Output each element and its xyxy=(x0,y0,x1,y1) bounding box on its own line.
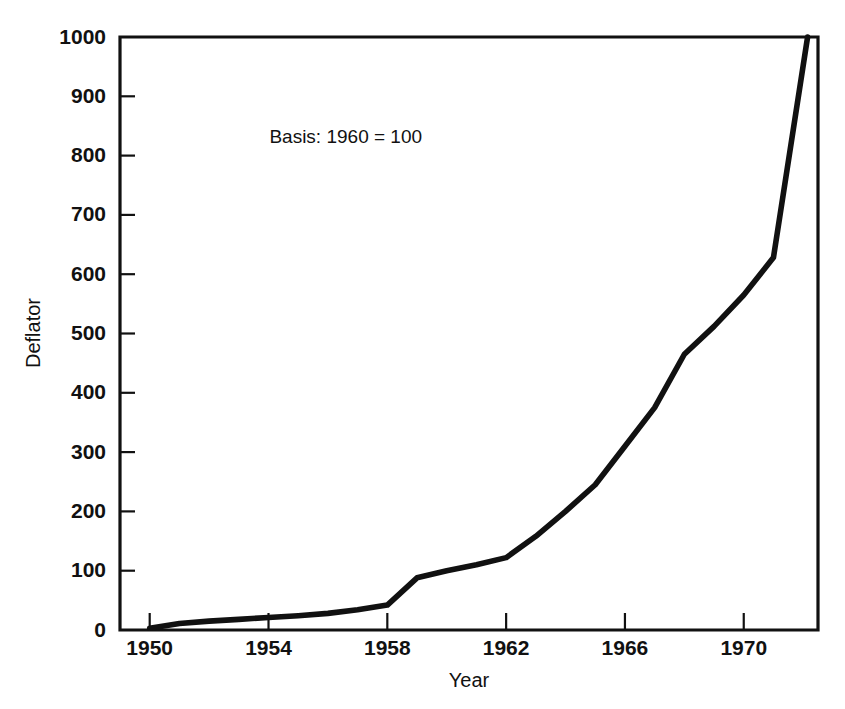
deflator-line-chart: 01002003004005006007008009001000 1950195… xyxy=(0,0,845,709)
x-axis-title: Year xyxy=(449,669,490,691)
y-tick-label: 300 xyxy=(71,440,106,463)
y-axis-title: Deflator xyxy=(22,298,44,368)
x-tick-label: 1970 xyxy=(720,636,767,659)
plot-frame xyxy=(120,37,818,630)
y-axis-tick-labels: 01002003004005006007008009001000 xyxy=(59,25,106,641)
y-tick-label: 600 xyxy=(71,262,106,285)
axes-frame xyxy=(120,37,818,630)
y-axis-ticks xyxy=(120,96,135,570)
chart-canvas: 01002003004005006007008009001000 1950195… xyxy=(0,0,845,709)
y-tick-label: 700 xyxy=(71,202,106,225)
x-tick-label: 1966 xyxy=(602,636,649,659)
x-tick-label: 1962 xyxy=(483,636,530,659)
y-tick-label: 800 xyxy=(71,143,106,166)
x-axis-tick-labels: 195019541958196219661970 xyxy=(126,636,767,659)
x-tick-label: 1958 xyxy=(364,636,411,659)
data-series-group xyxy=(150,37,808,628)
y-tick-label: 100 xyxy=(71,558,106,581)
y-tick-label: 900 xyxy=(71,84,106,107)
y-tick-label: 1000 xyxy=(59,25,106,48)
chart-annotation: Basis: 1960 = 100 xyxy=(269,126,422,147)
y-tick-label: 500 xyxy=(71,321,106,344)
basis-annotation-label: Basis: 1960 = 100 xyxy=(269,126,422,147)
y-tick-label: 0 xyxy=(94,618,106,641)
y-tick-label: 400 xyxy=(71,380,106,403)
y-tick-label: 200 xyxy=(71,499,106,522)
deflator-curve xyxy=(150,37,808,628)
x-tick-label: 1950 xyxy=(126,636,173,659)
x-tick-label: 1954 xyxy=(245,636,292,659)
